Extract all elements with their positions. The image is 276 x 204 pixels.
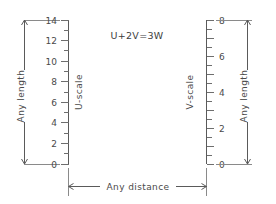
nomogram-figure: Any length 14 12 10 8 6 (0, 0, 276, 204)
u-scale-name: U-scale (74, 74, 84, 110)
u-tick-label: 6 (51, 98, 57, 108)
right-dimension-label: Any length (239, 70, 249, 123)
v-tick-label: 6 (219, 52, 225, 62)
bottom-dimension-label: Any distance (107, 182, 170, 192)
u-tick-label: 12 (46, 36, 57, 46)
equation-label: U+2V=3W (111, 30, 164, 41)
v-scale-tick-labels: 8 6 4 2 0 (219, 16, 225, 170)
v-scale-axis (207, 20, 215, 164)
u-tick-label: 4 (51, 118, 57, 128)
u-tick-label: 8 (51, 77, 57, 87)
u-scale-tick-labels: 14 12 10 8 6 4 2 0 (46, 16, 58, 170)
v-scale-name: V-scale (185, 75, 195, 110)
u-scale-axis (61, 20, 69, 164)
left-dimension-label: Any length (16, 70, 26, 123)
u-tick-label: 14 (46, 16, 58, 26)
u-tick-label: 0 (51, 160, 57, 170)
u-tick-label: 2 (51, 139, 57, 149)
v-tick-label: 4 (219, 88, 225, 98)
u-tick-label: 10 (46, 57, 58, 67)
v-tick-label: 2 (219, 124, 225, 134)
